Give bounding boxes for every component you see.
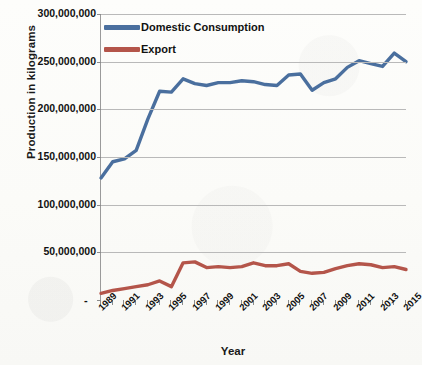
gridline-250000000 xyxy=(101,62,406,63)
production-line-chart: Production in kilograms 50,000,000100,00… xyxy=(0,0,422,365)
y-tick-label: 200,000,000 xyxy=(6,102,96,114)
legend-item-label: Domestic Consumption xyxy=(141,21,264,33)
y-tick-mark xyxy=(97,14,101,15)
gridline-200000000 xyxy=(101,109,406,110)
y-tick-label: 250,000,000 xyxy=(6,55,96,67)
legend-item[interactable]: Domestic Consumption xyxy=(104,16,316,38)
chart-legend: Domestic ConsumptionExport xyxy=(104,16,316,60)
gridline-300000000 xyxy=(101,14,406,15)
y-tick-label: 50,000,000 xyxy=(6,245,96,257)
y-tick-mark xyxy=(97,252,101,253)
x-axis-tick-labels: 1989199119931995199719992001200320052007… xyxy=(0,303,422,347)
x-axis-title-text: Year xyxy=(221,345,245,357)
x-axis-title: Year xyxy=(0,345,422,357)
y-tick-mark xyxy=(97,205,101,206)
y-tick-mark xyxy=(97,157,101,158)
legend-item[interactable]: Export xyxy=(104,38,316,60)
legend-color-swatch xyxy=(104,47,140,52)
series-line-domestic-consumption xyxy=(101,53,406,178)
series-line-export xyxy=(101,262,406,293)
y-tick-label: 150,000,000 xyxy=(6,150,96,162)
legend-color-swatch xyxy=(104,25,140,30)
y-tick-label: 100,000,000 xyxy=(6,198,96,210)
y-tick-label: 300,000,000 xyxy=(6,7,96,19)
gridline-150000000 xyxy=(101,157,406,158)
gridline-50000000 xyxy=(101,252,406,253)
y-tick-mark xyxy=(97,109,101,110)
legend-item-label: Export xyxy=(141,43,176,55)
gridline-100000000 xyxy=(101,205,406,206)
y-tick-mark xyxy=(97,62,101,63)
